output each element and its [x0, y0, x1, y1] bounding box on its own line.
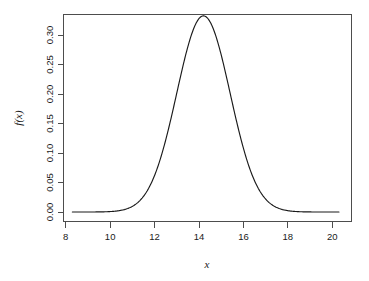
- x-tick-label: 18: [283, 231, 294, 242]
- x-tick-label: 10: [105, 231, 116, 242]
- x-tick-label: 20: [327, 231, 338, 242]
- x-axis-title: x: [204, 258, 210, 270]
- figure-background: [0, 0, 369, 281]
- y-tick-label: 0.20: [44, 85, 55, 104]
- x-tick-label: 14: [194, 231, 205, 242]
- y-tick-label: 0.10: [44, 144, 55, 163]
- y-tick-label: 0.00: [44, 203, 55, 222]
- chart-figure: 0.000.050.100.150.200.250.30 f(x) 810121…: [0, 0, 369, 281]
- y-tick-label: 0.25: [44, 55, 55, 74]
- y-tick-label: 0.05: [44, 173, 55, 192]
- y-axis-title: f(x): [12, 110, 25, 126]
- x-tick-label: 8: [63, 231, 68, 242]
- x-tick-label: 12: [149, 231, 160, 242]
- y-tick-label: 0.30: [44, 26, 55, 45]
- y-tick-label: 0.15: [44, 114, 55, 133]
- x-tick-label: 16: [238, 231, 249, 242]
- density-plot-svg: 0.000.050.100.150.200.250.30 f(x) 810121…: [0, 0, 369, 281]
